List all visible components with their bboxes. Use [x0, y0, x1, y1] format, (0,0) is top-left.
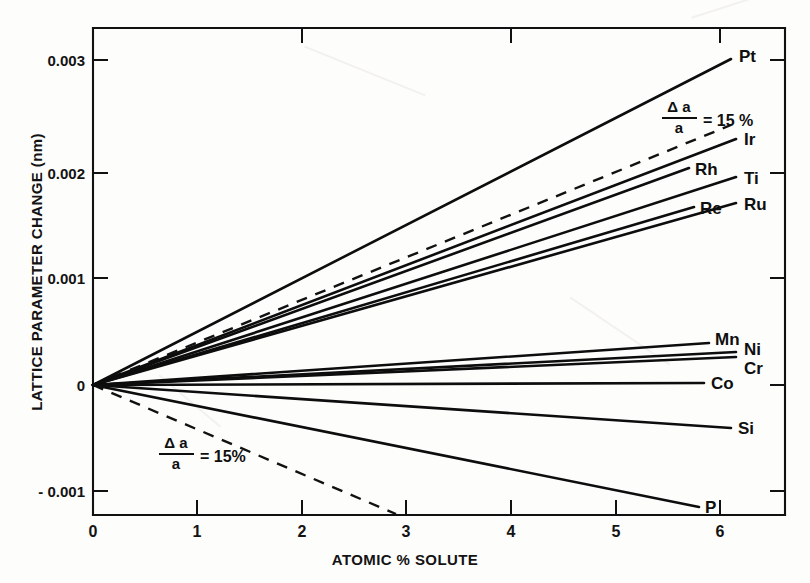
series-label-ir: Ir — [744, 130, 756, 149]
series-label-p: P — [705, 498, 716, 517]
x-axis-title: ATOMIC % SOLUTE — [332, 551, 478, 568]
series-label-ru: Ru — [744, 195, 767, 214]
y-axis-label-zero: 0 — [77, 377, 85, 394]
series-label-re: Re — [700, 199, 722, 218]
series-line-rh — [93, 168, 689, 385]
annotation-upper-denominator: a — [675, 119, 684, 136]
series-label-ti: Ti — [744, 169, 759, 188]
y-axis-label-0003: 0.003 — [47, 52, 85, 69]
x-axis-label-6: 6 — [716, 523, 725, 540]
y-axis-label-0002: 0.002 — [47, 165, 85, 182]
series-label-mn: Mn — [715, 330, 740, 349]
y-tick-labels: 0.003 0.002 0.001 0 - 0.001 — [38, 52, 85, 500]
reference-lines — [93, 125, 731, 514]
x-tick-labels: 0 1 2 3 4 5 6 — [89, 523, 725, 540]
series-line-co — [93, 383, 704, 385]
annotation-upper-numerator: Δ a — [667, 98, 691, 115]
annotation-upper-delta-a-over-a: Δ a a = 15 % — [662, 98, 753, 136]
y-axis-label-neg0001: - 0.001 — [38, 483, 85, 500]
series-line-ti — [93, 177, 736, 385]
annotation-upper-value: = 15 % — [703, 112, 753, 129]
annotation-lower-denominator: a — [172, 455, 181, 472]
reference-line-upper-15-percent — [93, 125, 731, 385]
x-axis-label-3: 3 — [402, 523, 411, 540]
annotation-lower-delta-a-over-a: Δ a a = 15% — [159, 434, 246, 472]
series-label-rh: Rh — [695, 160, 718, 179]
series-label-si: Si — [738, 419, 754, 438]
series-label-co: Co — [711, 374, 734, 393]
chart-figure: 0.003 0.002 0.001 0 - 0.001 0 1 2 3 4 5 … — [0, 0, 810, 583]
data-series-lines — [93, 59, 736, 507]
x-axis-label-1: 1 — [193, 523, 202, 540]
series-line-si — [93, 385, 731, 428]
x-axis-label-0: 0 — [89, 523, 98, 540]
series-label-pt: Pt — [739, 47, 756, 66]
x-tick-marks — [197, 28, 720, 515]
y-axis-title: LATTICE PARAMETER CHANGE (nm) — [28, 133, 45, 411]
chart-canvas: 0.003 0.002 0.001 0 - 0.001 0 1 2 3 4 5 … — [0, 0, 810, 583]
series-line-pt — [93, 59, 731, 385]
annotation-lower-numerator: Δ a — [164, 434, 188, 451]
x-axis-label-2: 2 — [298, 523, 307, 540]
annotation-lower-value: = 15% — [200, 448, 246, 465]
x-axis-label-4: 4 — [507, 523, 516, 540]
series-label-ni: Ni — [744, 340, 761, 359]
x-axis-label-5: 5 — [612, 523, 621, 540]
series-line-cr — [93, 357, 736, 385]
series-label-cr: Cr — [744, 359, 763, 378]
y-axis-label-0001: 0.001 — [47, 270, 85, 287]
